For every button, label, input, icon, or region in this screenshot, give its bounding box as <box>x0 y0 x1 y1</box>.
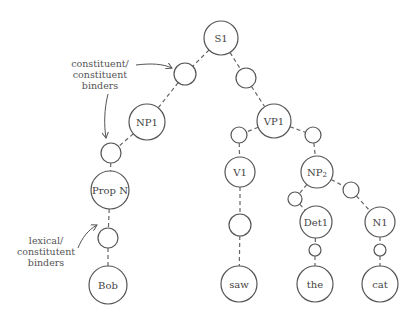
binder-node <box>236 68 256 88</box>
node-label: saw <box>229 279 249 290</box>
arrow-to-binder-np1-propn <box>105 94 108 138</box>
node-label: Bob <box>98 280 118 291</box>
node-the: the <box>297 266 333 302</box>
node-cat: cat <box>362 266 398 302</box>
binder-node <box>309 244 321 256</box>
node-NP1: NP1 <box>129 104 165 140</box>
node-label: V1 <box>232 167 247 178</box>
binder-node <box>229 214 251 236</box>
edge-NP2-b8 <box>299 184 306 193</box>
annotation-constituent-line3: binders <box>82 80 118 91</box>
edge-PropN-b4 <box>108 209 109 228</box>
node-PropN: Prop N <box>91 171 129 209</box>
binder-circle <box>231 127 247 143</box>
annotation-constituent-line1: constituent/ <box>71 58 129 69</box>
binder-circle <box>309 244 321 256</box>
edge-b6-NP2 <box>314 143 315 156</box>
node-Det1: Det1 <box>300 206 332 238</box>
edge-b8-Det1 <box>300 204 305 210</box>
binder-circle <box>98 228 118 248</box>
node-Bob: Bob <box>89 266 127 304</box>
annotation-constituent-line2: constituent <box>73 69 128 80</box>
edge-VP1-b5 <box>246 127 258 132</box>
annotation-lexical-binders: lexical/ constitutent binders <box>17 225 97 268</box>
edge-b7-saw <box>239 236 240 266</box>
binder-circle <box>229 214 251 236</box>
binder-node <box>343 182 359 198</box>
edge-NP2-b9 <box>331 179 344 186</box>
binder-circle <box>374 244 386 256</box>
binder-circle <box>305 127 321 143</box>
binder-circle <box>236 68 256 88</box>
node-label: cat <box>372 279 388 290</box>
annotation-lexical-line1: lexical/ <box>29 235 64 246</box>
edge-b2-VP1 <box>251 86 264 106</box>
node-saw: saw <box>221 266 257 302</box>
edge-S1-b2 <box>230 52 241 69</box>
binder-circle <box>288 192 302 206</box>
edge-NP1-b3 <box>119 134 134 147</box>
binder-node <box>305 127 321 143</box>
binder-node <box>231 127 247 143</box>
binder-circle <box>101 143 121 163</box>
edge-b9-N1 <box>356 196 370 211</box>
binder-node <box>98 228 118 248</box>
node-label: N1 <box>372 217 387 228</box>
node-label: NP1 <box>136 117 158 128</box>
node-N1: N1 <box>365 207 395 237</box>
node-NP2: NP2 <box>301 156 333 188</box>
node-label: Det1 <box>304 217 328 228</box>
parse-tree-diagram: S1NP1Prop NBobVP1V1sawNP2Det1theN1cat co… <box>0 0 414 318</box>
node-label: the <box>307 279 323 290</box>
node-S1: S1 <box>204 21 238 55</box>
annotation-lexical-line3: binders <box>28 257 64 268</box>
binder-circle <box>174 63 196 85</box>
edge-S1-b1 <box>193 50 209 66</box>
binder-circle <box>343 182 359 198</box>
node-VP1: VP1 <box>257 104 291 138</box>
binder-node <box>174 63 196 85</box>
binder-node <box>288 192 302 206</box>
tree-nodes: S1NP1Prop NBobVP1V1sawNP2Det1theN1cat <box>89 21 398 304</box>
arrow-to-binder-s1-np1 <box>136 64 172 68</box>
node-label: S1 <box>214 33 227 44</box>
edge-VP1-b6 <box>290 127 305 133</box>
node-label: Prop N <box>92 185 128 196</box>
edge-b1-NP1 <box>158 83 178 108</box>
node-label: VP1 <box>263 116 284 127</box>
binder-node <box>101 143 121 163</box>
binder-node <box>374 244 386 256</box>
node-V1: V1 <box>225 157 255 187</box>
annotation-lexical-line2: constitutent <box>17 246 75 257</box>
arrow-to-binder-propn-bob <box>78 225 97 248</box>
